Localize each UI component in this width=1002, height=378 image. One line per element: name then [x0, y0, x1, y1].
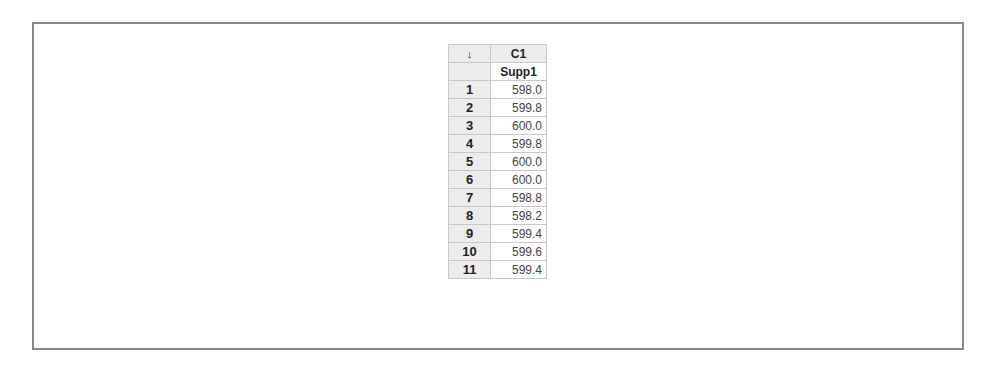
data-cell[interactable]: 600.0: [491, 117, 547, 135]
column-name-c1[interactable]: Supp1: [491, 63, 547, 81]
column-name-row: Supp1: [449, 63, 547, 81]
data-cell[interactable]: 599.4: [491, 261, 547, 279]
data-cell[interactable]: 598.2: [491, 207, 547, 225]
data-cell[interactable]: 599.6: [491, 243, 547, 261]
row-header[interactable]: 10: [449, 243, 491, 261]
table-row: 8 598.2: [449, 207, 547, 225]
table-row: 1 598.0: [449, 81, 547, 99]
row-header[interactable]: 6: [449, 171, 491, 189]
data-cell[interactable]: 598.0: [491, 81, 547, 99]
data-cell[interactable]: 600.0: [491, 171, 547, 189]
row-header[interactable]: 1: [449, 81, 491, 99]
table-row: 3 600.0: [449, 117, 547, 135]
worksheet-table: ↓ C1 Supp1 1 598.0 2 599.8 3 600.0 4 599…: [448, 44, 547, 279]
data-cell[interactable]: 599.4: [491, 225, 547, 243]
table-row: 9 599.4: [449, 225, 547, 243]
data-cell[interactable]: 598.8: [491, 189, 547, 207]
row-header[interactable]: 7: [449, 189, 491, 207]
column-name-row-header: [449, 63, 491, 81]
table-row: 11 599.4: [449, 261, 547, 279]
table-row: 6 600.0: [449, 171, 547, 189]
down-arrow-icon[interactable]: ↓: [449, 45, 491, 63]
table-row: 2 599.8: [449, 99, 547, 117]
column-id-row: ↓ C1: [449, 45, 547, 63]
row-header[interactable]: 3: [449, 117, 491, 135]
data-cell[interactable]: 599.8: [491, 99, 547, 117]
table-row: 4 599.8: [449, 135, 547, 153]
column-header-c1[interactable]: C1: [491, 45, 547, 63]
row-header[interactable]: 5: [449, 153, 491, 171]
row-header[interactable]: 11: [449, 261, 491, 279]
row-header[interactable]: 2: [449, 99, 491, 117]
data-cell[interactable]: 600.0: [491, 153, 547, 171]
row-header[interactable]: 8: [449, 207, 491, 225]
row-header[interactable]: 9: [449, 225, 491, 243]
row-header[interactable]: 4: [449, 135, 491, 153]
table-row: 7 598.8: [449, 189, 547, 207]
table-row: 10 599.6: [449, 243, 547, 261]
table-row: 5 600.0: [449, 153, 547, 171]
data-cell[interactable]: 599.8: [491, 135, 547, 153]
